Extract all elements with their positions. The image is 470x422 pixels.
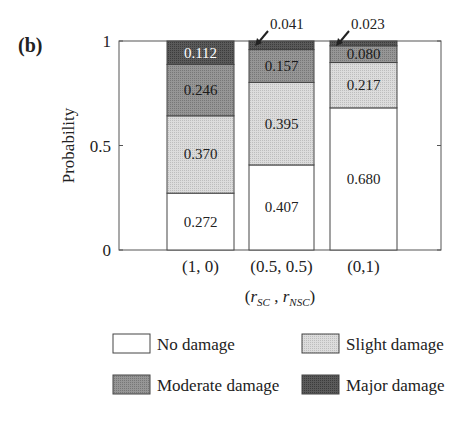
annotation-label: 0.023 xyxy=(351,16,385,32)
x-tick-label: (0.5, 0.5) xyxy=(250,257,312,276)
legend-swatch-major-damage xyxy=(302,375,339,394)
y-axis-label: Probability xyxy=(59,107,78,183)
legend-label: Major damage xyxy=(346,376,445,395)
y-tick-label: 0 xyxy=(103,241,112,260)
legend-swatch-slight-damage xyxy=(302,334,339,353)
x-tick-label: (1, 0) xyxy=(182,257,219,276)
legend: No damageSlight damageModerate damageMaj… xyxy=(113,334,445,395)
plot-area: 0.2720.3700.2460.112(1, 0)0.4070.3950.15… xyxy=(59,16,441,308)
bar-value-label: 0.680 xyxy=(347,171,381,187)
annotation-label: 0.041 xyxy=(270,16,304,32)
bar-value-label: 0.272 xyxy=(184,214,218,230)
stacked-bar-chart: (b) 0.2720.3700.2460.112(1, 0)0.4070.395… xyxy=(0,0,470,422)
y-tick-label: 1 xyxy=(103,32,112,51)
x-tick-label: (0,1) xyxy=(347,257,380,276)
bar-value-label: 0.157 xyxy=(265,58,299,74)
legend-label: Slight damage xyxy=(346,335,444,354)
legend-label: Moderate damage xyxy=(157,376,279,395)
x-axis-label: (rSC , rNSC) xyxy=(245,287,315,308)
y-tick-label: 0.5 xyxy=(90,137,111,156)
legend-swatch-no-damage xyxy=(113,334,150,353)
bar-value-label: 0.407 xyxy=(265,199,299,215)
bar-value-label: 0.080 xyxy=(347,46,381,62)
bar-value-label: 0.217 xyxy=(347,77,381,93)
legend-label: No damage xyxy=(157,335,235,354)
panel-label: (b) xyxy=(18,34,42,57)
bar-value-label: 0.395 xyxy=(265,116,299,132)
legend-swatch-moderate-damage xyxy=(113,375,150,394)
bar-value-label: 0.112 xyxy=(184,45,217,61)
bar-value-label: 0.246 xyxy=(184,82,218,98)
bar-value-label: 0.370 xyxy=(184,146,218,162)
